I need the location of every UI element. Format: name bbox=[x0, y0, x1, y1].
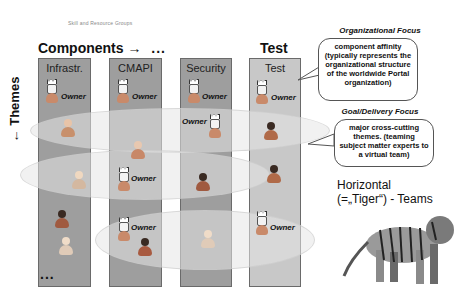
person-icon bbox=[267, 165, 281, 183]
horizontal-line1: Horizontal bbox=[337, 178, 433, 192]
callout-pointer bbox=[306, 132, 336, 152]
owner-crown-icon bbox=[256, 211, 268, 235]
org-focus-title: Organizational Focus bbox=[320, 26, 440, 35]
owner-label: Owner bbox=[61, 92, 86, 101]
person-icon bbox=[264, 122, 278, 140]
owner-crown-icon bbox=[209, 114, 221, 138]
goal-focus-callout: major cross-cutting themes. (teaming sub… bbox=[334, 119, 434, 167]
theme-band-1 bbox=[30, 108, 330, 153]
owner-label: Owner bbox=[182, 117, 207, 126]
owner-label: Owner bbox=[271, 93, 296, 102]
tiger-image bbox=[340, 200, 460, 290]
person-icon bbox=[55, 210, 69, 228]
owner-crown-icon bbox=[118, 217, 130, 241]
column-title: Test bbox=[250, 62, 300, 74]
column-title: CMAPI bbox=[110, 62, 161, 74]
components-ellipsis: ... bbox=[151, 40, 166, 56]
owner-crown-icon bbox=[118, 167, 130, 191]
owner-crown-icon bbox=[256, 80, 268, 104]
test-heading: Test bbox=[260, 40, 288, 56]
person-icon bbox=[196, 173, 210, 191]
diagram-subtitle: Skill and Resource Groups bbox=[68, 20, 132, 26]
owner-label: Owner bbox=[132, 92, 157, 101]
owner-label: Owner bbox=[202, 92, 227, 101]
owner-label: Owner bbox=[131, 174, 156, 183]
org-focus-callout: component affinity (typically represents… bbox=[318, 38, 418, 101]
person-icon bbox=[131, 141, 145, 159]
owner-label: Owner bbox=[131, 223, 156, 232]
owner-crown-icon bbox=[188, 79, 200, 103]
owner-crown-icon bbox=[117, 79, 129, 103]
person-icon bbox=[138, 238, 152, 256]
bottom-ellipsis: ... bbox=[40, 266, 55, 282]
column-title: Security bbox=[181, 62, 231, 74]
components-label: Components → bbox=[38, 40, 141, 56]
owner-label: Owner bbox=[270, 223, 295, 232]
components-heading: Components → ... bbox=[38, 40, 166, 56]
person-icon bbox=[72, 171, 86, 189]
person-icon bbox=[61, 119, 75, 137]
owner-crown-icon bbox=[46, 79, 58, 103]
goal-focus-title: Goal/Delivery Focus bbox=[320, 107, 440, 116]
person-icon bbox=[201, 230, 215, 248]
column-title: Infrastr. bbox=[39, 62, 90, 74]
themes-axis-label: ← Themes bbox=[10, 72, 36, 152]
person-icon bbox=[59, 237, 73, 255]
themes-label: ← Themes bbox=[7, 77, 22, 143]
